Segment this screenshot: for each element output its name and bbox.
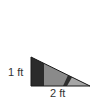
triangle-figure: 1 ft 2 ft	[0, 0, 97, 98]
height-label: 1 ft	[8, 67, 23, 78]
base-label: 2 ft	[50, 88, 65, 98]
triangle-dark-section	[31, 57, 44, 86]
triangle-diagram	[0, 0, 97, 98]
